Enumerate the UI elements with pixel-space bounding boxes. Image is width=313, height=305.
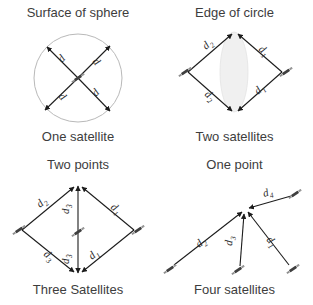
panel-one-satellite: Surface of sphere d d d [0,0,156,152]
panel-two-satellites: Edge of circle [156,0,313,152]
satellite-icon-lower-right [286,264,300,275]
distance-label-d1-lower-right: d 1 [86,246,103,264]
distance-label-3: d [57,90,70,103]
satellite-icon-lower-center [231,265,245,276]
satellite-icon [71,73,85,84]
satellite-icon-upper-right [288,189,302,200]
distance-label-sub: 3 [65,254,74,259]
distance-label-d1-upper-right: d 1 [107,200,124,218]
panel-caption-three-satellites: Three Satellites [0,282,156,297]
distance-label-2: d [91,55,104,68]
satellite-icon-lower-left [163,264,177,275]
satellite-icon-right [279,67,293,78]
distance-label-d1-upper: d 1 [255,42,272,60]
range-ray-d3 [240,214,244,266]
panel-caption-two-satellites: Two satellites [156,129,313,144]
figure-grid: Surface of sphere d d d [0,0,313,305]
distance-label-4: d [89,86,102,99]
distance-label-d4: d 4 [261,185,275,202]
edge-of-circle-lens [220,32,248,112]
panel-caption-one-satellite: One satellite [0,129,156,144]
distance-label-sub: 4 [269,190,275,200]
satellite-icon-left [12,225,26,236]
panel-three-satellites: Two points [0,152,156,305]
distance-label-d1: d 1 [262,234,280,251]
distance-label-sub: 3 [65,204,74,209]
distance-label-d3-upper-center: d 3 [59,204,74,214]
distance-label-d3: d 3 [222,235,238,246]
distance-label-d2: d 2 [193,234,210,252]
range-ray-right-upper [82,187,134,230]
satellite-icon-left [178,67,192,78]
panel-four-satellites: One point [156,152,313,305]
distance-label-1: d [55,52,68,65]
distance-label-d2-upper-left: d 2 [34,194,51,212]
panel-caption-four-satellites: Four satellites [156,282,313,297]
distance-label-sub: 3 [228,236,237,242]
distance-label-d3-lower-center: d 3 [59,254,74,264]
distance-label-d2-upper: d 2 [199,36,216,54]
